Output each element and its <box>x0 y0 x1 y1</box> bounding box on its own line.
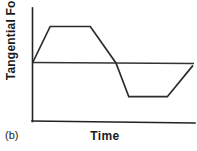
tangential-force-curve <box>33 27 194 97</box>
y-axis-label: Tangential Force <box>4 0 22 84</box>
panel-label: (b) <box>5 129 18 141</box>
figure-panel: Tangential Force Time (b) <box>0 0 197 151</box>
x-axis-line <box>32 121 195 123</box>
x-axis-label: Time <box>60 129 150 143</box>
zero-reference-line <box>32 63 194 64</box>
